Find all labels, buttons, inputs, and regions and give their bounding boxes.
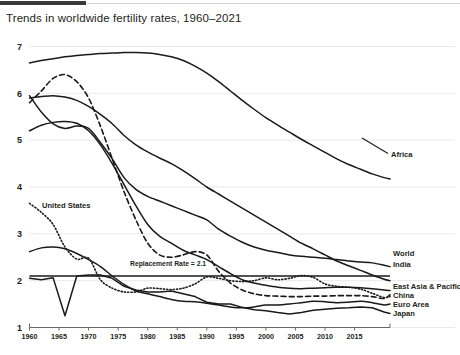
series-line-world xyxy=(30,96,391,267)
x-tick-label-1985: 1985 xyxy=(169,332,185,341)
series-line-india xyxy=(30,96,391,281)
x-tick-label-1970: 1970 xyxy=(81,332,97,341)
x-tick-label-1960: 1960 xyxy=(22,332,38,341)
x-tick-label-1995: 1995 xyxy=(228,332,244,341)
y-axis-labels: 1234567 xyxy=(17,42,22,333)
series-line-united-states xyxy=(30,203,391,297)
series-labels: WorldIndiaEast Asia & PacificChinaEuro A… xyxy=(362,138,460,318)
x-tick-label-2010: 2010 xyxy=(317,332,333,341)
x-axis-labels: 1960196519701975198019851990199520002005… xyxy=(22,332,363,341)
y-tick-label-5: 5 xyxy=(17,135,22,145)
y-tick-label-7: 7 xyxy=(17,42,22,52)
series-line-china xyxy=(30,75,391,299)
series-label-india: India xyxy=(393,260,411,269)
x-tick-label-2000: 2000 xyxy=(258,332,274,341)
series-label-china: China xyxy=(393,291,415,300)
series-label-euro-area: Euro Area xyxy=(393,300,430,309)
annotation-replacement-rate: Replacement Rate = 2.1 xyxy=(130,260,206,268)
y-tick-label-6: 6 xyxy=(17,89,22,99)
series-label-japan: Japan xyxy=(393,309,415,318)
annotation-united-states: United States xyxy=(42,201,91,210)
x-tick-label-1980: 1980 xyxy=(140,332,156,341)
series-label-world: World xyxy=(393,249,415,258)
x-tick-label-2015: 2015 xyxy=(347,332,363,341)
x-axis xyxy=(30,324,391,331)
y-tick-label-4: 4 xyxy=(17,182,22,192)
x-tick-label-1990: 1990 xyxy=(199,332,215,341)
series-line-africa xyxy=(30,53,391,180)
y-tick-label-2: 2 xyxy=(17,276,22,286)
gridlines xyxy=(30,47,456,328)
x-tick-label-1975: 1975 xyxy=(110,332,126,341)
chart-container: 1234567 19601965197019751980198519901995… xyxy=(0,0,460,355)
fertility-line-chart: 1234567 19601965197019751980198519901995… xyxy=(0,0,460,355)
series-label-africa: Africa xyxy=(391,150,413,159)
x-tick-label-1965: 1965 xyxy=(51,332,67,341)
x-tick-label-2005: 2005 xyxy=(287,332,303,341)
y-tick-label-3: 3 xyxy=(17,229,22,239)
